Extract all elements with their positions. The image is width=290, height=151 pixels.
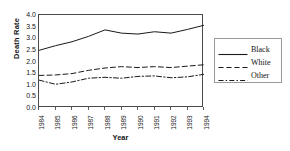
- x-tick-label: 1993: [186, 115, 193, 129]
- x-tick-label: 1987: [87, 115, 94, 129]
- legend-line-swatch-white: [218, 58, 248, 67]
- legend-line-swatch-black: [218, 45, 248, 54]
- series-lines: [39, 15, 204, 108]
- x-axis-tick-labels: 1984198519861987198819891990199119921993…: [38, 110, 203, 132]
- x-tick-label: 1992: [169, 115, 176, 129]
- y-tick-label: 4.0: [26, 11, 36, 18]
- y-axis-tick-labels: 4.03.53.02.52.01.51.00.50.0: [14, 14, 36, 107]
- legend-label: Other: [251, 71, 269, 80]
- x-tick-label: 1990: [136, 115, 143, 129]
- y-tick-label: 3.5: [26, 22, 36, 29]
- y-tick-label: 3.0: [26, 34, 36, 41]
- x-tick-label: 1994: [202, 115, 209, 129]
- x-tick-label: 1991: [153, 115, 160, 129]
- series-line-black: [39, 25, 204, 50]
- x-tick-mark: [203, 107, 204, 110]
- series-line-white: [39, 65, 204, 76]
- legend-label: Black: [251, 45, 270, 54]
- legend-item-black[interactable]: Black: [218, 43, 278, 56]
- x-tick-label: 1984: [37, 115, 44, 129]
- chart-legend: BlackWhiteOther: [214, 38, 282, 83]
- plot-area: [38, 14, 203, 107]
- x-tick-label: 1988: [103, 115, 110, 129]
- y-tick-label: 1.5: [26, 69, 36, 76]
- legend-item-other[interactable]: Other: [218, 69, 278, 82]
- y-tick-label: 1.0: [26, 80, 36, 87]
- y-tick-label: 0.5: [26, 92, 36, 99]
- series-line-other: [39, 74, 204, 84]
- y-tick-label: 2.5: [26, 45, 36, 52]
- legend-item-white[interactable]: White: [218, 56, 278, 69]
- x-axis-title: Year: [38, 133, 203, 142]
- x-tick-label: 1989: [120, 115, 127, 129]
- y-tick-label: 0.0: [26, 104, 36, 111]
- legend-label: White: [251, 58, 271, 67]
- legend-line-swatch-other: [218, 71, 248, 80]
- y-tick-label: 2.0: [26, 57, 36, 64]
- chart-figure: Death Rate 4.03.53.02.52.01.51.00.50.0 1…: [0, 0, 290, 151]
- x-tick-label: 1986: [70, 115, 77, 129]
- x-tick-label: 1985: [54, 115, 61, 129]
